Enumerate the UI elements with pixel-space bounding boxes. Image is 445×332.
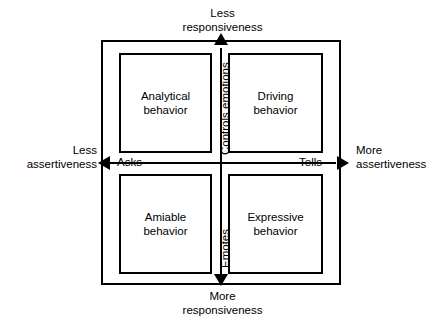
- axis-pole-tells: Tells: [299, 156, 322, 169]
- axis-label-bottom: More responsiveness: [0, 289, 445, 317]
- axis-pole-asks: Asks: [117, 156, 142, 169]
- axis-pole-emotes: Emotes: [219, 229, 232, 268]
- quadrant-analytical-label: Analytical behavior: [141, 89, 190, 117]
- quadrant-amiable: Amiable behavior: [119, 174, 212, 274]
- quadrant-expressive: Expressive behavior: [228, 174, 323, 274]
- arrow-down-icon: [214, 274, 228, 286]
- axis-label-right: More assertiveness: [356, 143, 445, 171]
- arrow-right-icon: [337, 156, 349, 170]
- quadrant-driving-label: Driving behavior: [253, 89, 297, 117]
- quadrant-analytical: Analytical behavior: [119, 53, 212, 153]
- axis-label-left: Less assertiveness: [0, 143, 97, 171]
- arrow-up-icon: [214, 33, 228, 45]
- quadrant-expressive-label: Expressive behavior: [247, 210, 303, 238]
- axis-label-top: Less responsiveness: [0, 6, 445, 34]
- arrow-left-icon: [98, 156, 110, 170]
- quadrant-amiable-label: Amiable behavior: [143, 210, 187, 238]
- diagram-canvas: Analytical behavior Driving behavior Ami…: [0, 0, 445, 332]
- quadrant-driving: Driving behavior: [228, 53, 323, 153]
- axis-pole-controls-emotions: Controls emotions: [219, 62, 232, 155]
